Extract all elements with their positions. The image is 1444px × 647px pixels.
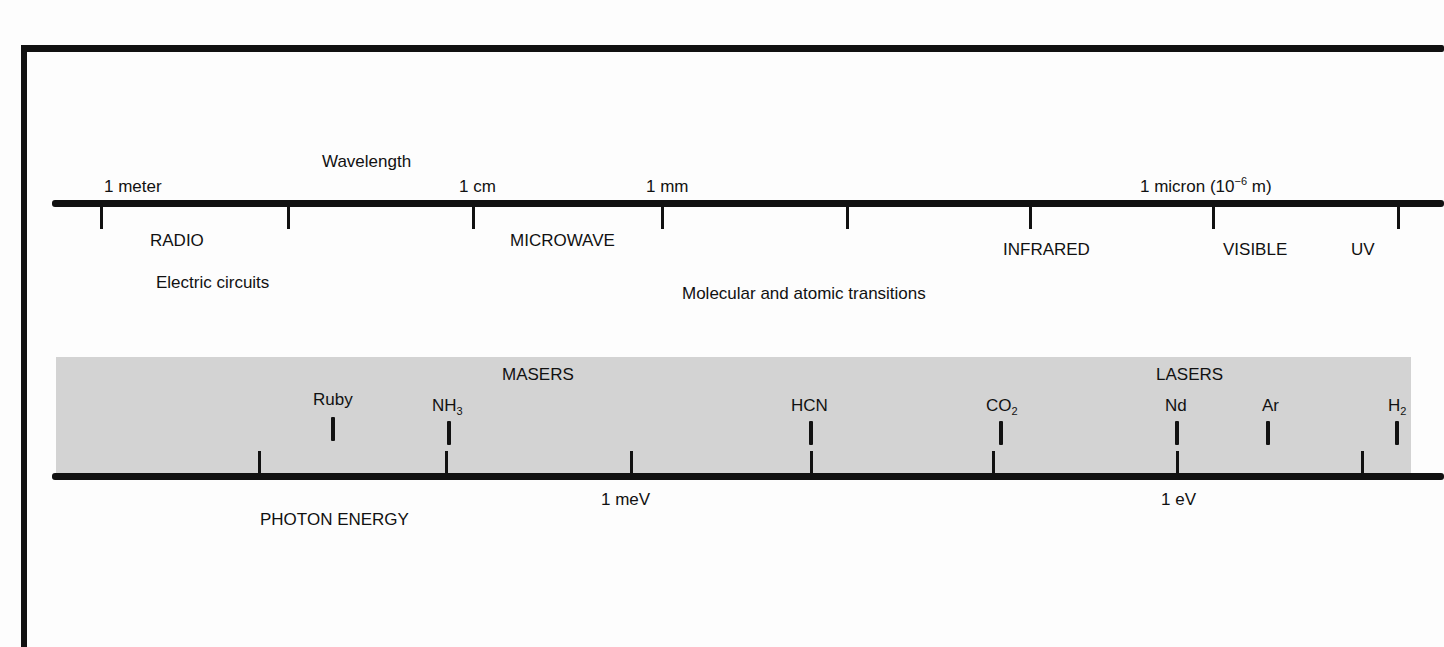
source-marker [1175, 421, 1179, 445]
wavelength-tick [100, 205, 103, 229]
wavelength-scale-label: 1 mm [646, 178, 689, 195]
wavelength-tick [1397, 205, 1400, 229]
wavelength-axis-line [52, 200, 1444, 207]
energy-tick [258, 451, 261, 475]
energy-tick [1176, 451, 1179, 475]
region-label-radio: RADIO [150, 232, 204, 249]
source-marker [1266, 421, 1270, 445]
source-label: Ruby [313, 391, 353, 408]
wavelength-tick [1212, 205, 1215, 229]
energy-tick [1361, 451, 1364, 475]
energy-scale-label: 1 eV [1161, 491, 1196, 508]
source-marker [999, 421, 1003, 445]
region-label-microwave: MICROWAVE [510, 232, 615, 249]
band-group-masers: MASERS [502, 366, 574, 383]
source-label: H2 [1388, 397, 1406, 414]
wavelength-annotation: Molecular and atomic transitions [682, 285, 926, 302]
source-marker [331, 417, 335, 441]
energy-tick [445, 451, 448, 475]
energy-tick [630, 451, 633, 475]
frame-top-border [22, 45, 1444, 52]
frame-left-border [21, 45, 27, 647]
energy-axis-title: PHOTON ENERGY [260, 511, 409, 528]
source-label: Ar [1262, 397, 1279, 414]
region-label-uv: UV [1351, 241, 1375, 258]
source-marker [1395, 421, 1399, 445]
energy-scale-label: 1 meV [601, 491, 650, 508]
wavelength-tick [287, 205, 290, 229]
wavelength-scale-label: 1 meter [104, 178, 162, 195]
wavelength-axis-title: Wavelength [322, 153, 411, 170]
region-label-infrared: INFRARED [1003, 241, 1090, 258]
source-label: NH3 [432, 397, 463, 414]
source-marker [809, 421, 813, 445]
source-label: Nd [1165, 397, 1187, 414]
wavelength-annotation: Electric circuits [156, 274, 269, 291]
wavelength-scale-label: 1 cm [459, 178, 496, 195]
wavelength-tick [472, 205, 475, 229]
source-label: HCN [791, 397, 828, 414]
wavelength-tick [661, 205, 664, 229]
wavelength-tick [846, 205, 849, 229]
source-label: CO2 [986, 397, 1018, 414]
wavelength-scale-label: 1 micron (10−6 m) [1140, 178, 1272, 195]
region-label-visible: VISIBLE [1223, 241, 1287, 258]
energy-tick [810, 451, 813, 475]
energy-tick [992, 451, 995, 475]
band-group-lasers: LASERS [1156, 366, 1223, 383]
source-marker [447, 421, 451, 445]
wavelength-tick [1029, 205, 1032, 229]
